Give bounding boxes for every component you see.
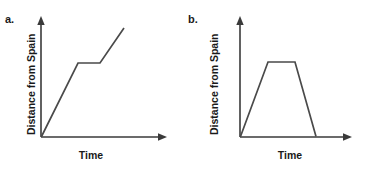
panel-b-x-axis-arrowhead <box>343 133 352 140</box>
panel-a-x-axis-arrowhead <box>158 133 167 140</box>
panel-b: b. Distance from Spain Time <box>183 0 365 172</box>
panel-a-y-axis-arrowhead <box>37 16 44 25</box>
panel-b-plot <box>183 0 365 172</box>
panel-b-y-axis-arrowhead <box>236 16 243 25</box>
panel-b-x-axis-label: Time <box>260 150 320 161</box>
panel-a-plot <box>0 0 183 172</box>
panel-a-data-line <box>42 28 125 137</box>
panel-a-x-axis-label: Time <box>61 150 121 161</box>
panel-a: a. Distance from Spain Time <box>0 0 183 172</box>
panel-b-data-line <box>241 62 317 137</box>
figure-canvas: a. Distance from Spain Time b. Distance … <box>0 0 365 172</box>
